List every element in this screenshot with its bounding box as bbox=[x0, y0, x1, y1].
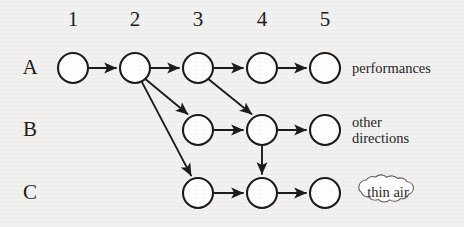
row-label-a: A bbox=[17, 57, 43, 78]
diagram-canvas: 1 2 3 4 5 A B C performances other direc… bbox=[0, 0, 464, 227]
column-header-1: 1 bbox=[58, 9, 88, 30]
node-a1[interactable] bbox=[58, 53, 88, 83]
column-header-2: 2 bbox=[120, 9, 150, 30]
node-b3[interactable] bbox=[183, 115, 213, 145]
column-header-3: 3 bbox=[183, 9, 213, 30]
node-a3[interactable] bbox=[183, 53, 213, 83]
node-b5[interactable] bbox=[310, 115, 340, 145]
node-a2[interactable] bbox=[120, 53, 150, 83]
column-header-5: 5 bbox=[310, 9, 340, 30]
row-label-c: C bbox=[17, 182, 43, 203]
edge-a2-b3 bbox=[146, 79, 188, 114]
row-b-annotation: other directions bbox=[352, 114, 409, 146]
node-c5[interactable] bbox=[310, 178, 340, 208]
node-c4[interactable] bbox=[247, 178, 277, 208]
node-c3[interactable] bbox=[183, 178, 213, 208]
row-a-annotation: performances bbox=[352, 60, 431, 76]
node-a4[interactable] bbox=[247, 53, 277, 83]
row-label-b: B bbox=[17, 119, 43, 140]
column-header-4: 4 bbox=[247, 9, 277, 30]
node-a5[interactable] bbox=[310, 53, 340, 83]
row-c-annotation: thin air bbox=[351, 185, 425, 200]
node-b4[interactable] bbox=[247, 115, 277, 145]
edge-a3-b4 bbox=[209, 79, 252, 114]
